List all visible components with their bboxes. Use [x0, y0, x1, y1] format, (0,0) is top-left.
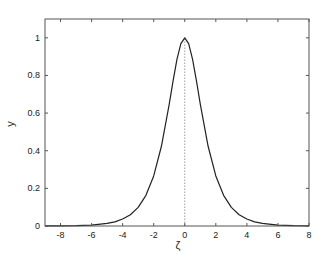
x-tick-label: 0: [182, 230, 187, 240]
x-tick-label: 2: [213, 230, 218, 240]
x-axis-label: ζ: [176, 239, 181, 251]
x-tick-label: 6: [275, 230, 280, 240]
y-axis-label: y: [4, 121, 16, 127]
y-tick-label: 0: [35, 221, 40, 231]
series-line: [45, 38, 309, 226]
y-tick-label: 0.4: [27, 146, 40, 156]
x-tick-label: 4: [244, 230, 249, 240]
x-tick-label: -2: [150, 230, 158, 240]
chart: -8-6-4-202468 00.20.40.60.81 ζ y: [0, 0, 326, 255]
axes-frame: [45, 19, 309, 226]
y-tick-label: 1: [35, 33, 40, 43]
x-tick-label: -8: [57, 230, 65, 240]
y-tick-label: 0.6: [27, 108, 40, 118]
y-tick-label: 0.2: [27, 183, 40, 193]
y-tick-label: 0.8: [27, 70, 40, 80]
x-tick-label: -4: [119, 230, 127, 240]
x-tick-label: 8: [306, 230, 311, 240]
x-tick-label: -6: [88, 230, 96, 240]
